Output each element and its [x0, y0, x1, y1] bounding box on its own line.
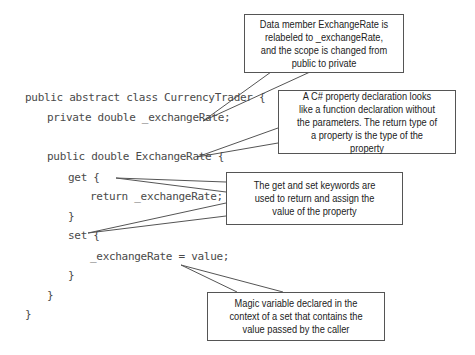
callout-text: The get and set keywords are used to ret…	[243, 179, 386, 218]
callout-get-set-keywords: The get and set keywords are used to ret…	[226, 172, 403, 225]
callout-text: Data member ExchangeRate is relabeled to…	[260, 18, 388, 70]
callout-value-variable: Magic variable declared in the context o…	[207, 292, 385, 341]
code-line-set: set {	[68, 229, 100, 243]
callout-text: A C# property declaration looks like a f…	[295, 90, 439, 155]
code-line-assign: _exchangeRate = value;	[90, 250, 229, 264]
code-line-class-close: }	[25, 308, 31, 322]
code-annotation-diagram: public abstract class CurrencyTrader { p…	[0, 0, 475, 355]
code-line-return: return _exchangeRate;	[90, 190, 223, 204]
code-line-field-declaration: private double _exchangeRate;	[47, 111, 230, 125]
code-line-get-close: }	[68, 210, 74, 224]
callout-text: Magic variable declared in the context o…	[224, 297, 368, 336]
code-line-get: get {	[68, 171, 100, 185]
code-line-set-close: }	[68, 269, 74, 283]
code-line-property-declaration: public double ExchangeRate {	[47, 150, 224, 164]
code-line-class-declaration: public abstract class CurrencyTrader {	[25, 91, 265, 105]
code-line-property-close: }	[47, 289, 53, 303]
callout-property-declaration: A C# property declaration looks like a f…	[278, 90, 456, 154]
callout-field-rename: Data member ExchangeRate is relabeled to…	[244, 14, 404, 73]
